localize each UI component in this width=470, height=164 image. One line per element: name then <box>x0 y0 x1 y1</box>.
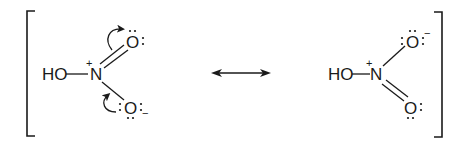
left-top-oxygen-label: O <box>126 33 139 52</box>
left-top-double-bond-a <box>100 45 124 64</box>
right-bracket <box>434 12 442 137</box>
left-top-double-bond-b <box>104 50 128 68</box>
right-top-single-bond <box>383 46 405 66</box>
right-bottom-oxygen-label: O <box>404 99 417 118</box>
left-bottom-oxygen-charge: − <box>142 107 148 119</box>
left-resonance-structure: HO N + O O − <box>42 29 148 119</box>
right-top-oxygen-charge: − <box>424 27 430 39</box>
left-bottom-curved-arrow-icon <box>104 95 116 112</box>
right-hydroxyl-label: HO <box>328 65 354 84</box>
right-resonance-structure: HO N + O − O <box>328 27 430 119</box>
left-hydroxyl-label: HO <box>42 65 68 84</box>
resonance-diagram: HO N + O O − <box>0 0 470 164</box>
left-bracket <box>27 11 35 136</box>
resonance-arrow-icon <box>211 69 271 77</box>
right-nitrogen-charge: + <box>366 57 372 69</box>
right-bottom-double-bond-a <box>382 84 404 101</box>
left-bottom-oxygen-label: O <box>124 99 137 118</box>
left-top-curved-arrow-icon <box>108 29 122 50</box>
right-bottom-double-bond-b <box>386 80 408 97</box>
left-nitrogen-charge: + <box>86 57 92 69</box>
right-top-oxygen-label: O <box>406 33 419 52</box>
